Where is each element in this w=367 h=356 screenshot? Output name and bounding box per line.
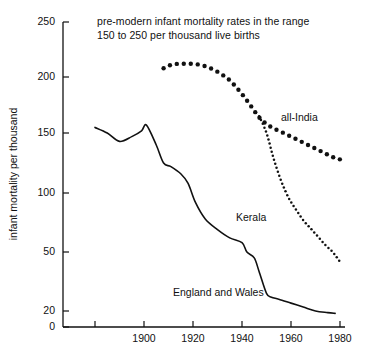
series-dot-all-india xyxy=(287,134,291,138)
series-dot-kerala xyxy=(278,175,281,178)
series-dot-all-india xyxy=(161,66,165,70)
series-dot-kerala xyxy=(258,115,261,118)
series-dot-all-india xyxy=(318,149,322,153)
series-dot-kerala xyxy=(275,167,278,170)
series-dot-all-india xyxy=(189,62,193,66)
x-tick-label: 1960 xyxy=(271,332,311,344)
series-dot-all-india xyxy=(221,73,225,77)
series-dot-kerala xyxy=(336,256,339,259)
series-dot-kerala xyxy=(281,182,284,185)
y-axis-ticks xyxy=(63,22,69,327)
series-dot-kerala xyxy=(265,130,268,133)
series-dot-kerala xyxy=(266,134,269,137)
series-dot-kerala xyxy=(333,253,336,256)
series-dot-all-india xyxy=(306,143,310,147)
x-tick-label: 1920 xyxy=(173,332,213,344)
series-dot-all-india xyxy=(312,146,316,150)
series-dot-kerala xyxy=(324,244,327,247)
series-dot-all-india xyxy=(268,124,272,128)
series-dot-all-india xyxy=(202,64,206,68)
series-dot-all-india xyxy=(300,140,304,144)
series-dot-kerala xyxy=(330,250,333,253)
series-dot-all-india xyxy=(325,152,329,156)
series-dot-kerala xyxy=(274,163,277,166)
series-dot-all-india xyxy=(209,66,213,70)
series-dot-kerala xyxy=(273,159,276,162)
series-dot-all-india xyxy=(227,77,231,81)
y-tick-label: 150 xyxy=(25,126,55,138)
x-axis-ticks xyxy=(95,321,340,327)
series-dot-kerala xyxy=(290,201,293,204)
series-dot-kerala xyxy=(302,219,305,222)
series-dot-all-india xyxy=(338,157,342,161)
series-dot-all-india xyxy=(249,104,253,108)
series-dot-all-india xyxy=(274,128,278,132)
series-dot-kerala xyxy=(270,150,273,153)
series-dot-kerala xyxy=(299,215,302,218)
series-dot-all-india xyxy=(281,130,285,134)
series-dot-all-india xyxy=(293,137,297,141)
series-dot-kerala xyxy=(292,205,295,208)
series-dot-all-india xyxy=(331,155,335,159)
series-dot-kerala xyxy=(297,212,300,215)
series-dot-kerala xyxy=(284,190,287,193)
x-tick-label: 1940 xyxy=(222,332,262,344)
y-tick-label: 50 xyxy=(25,245,55,257)
series-dot-all-india xyxy=(215,69,219,73)
y-tick-label: 20 xyxy=(25,304,55,316)
series-dot-kerala xyxy=(310,228,313,231)
series-dot-all-india xyxy=(196,62,200,66)
series-dot-kerala xyxy=(313,231,316,234)
series-dot-kerala xyxy=(295,208,298,211)
series-dot-kerala xyxy=(269,146,272,149)
series-dot-kerala xyxy=(262,123,265,126)
series-dot-all-india xyxy=(168,63,172,67)
series-dot-all-india xyxy=(175,62,179,66)
data-series xyxy=(95,62,342,314)
y-tick-label: 200 xyxy=(25,70,55,82)
series-dot-kerala xyxy=(279,178,282,181)
series-dot-kerala xyxy=(260,119,263,122)
series-dot-all-india xyxy=(232,82,236,86)
y-tick-label: 100 xyxy=(25,186,55,198)
series-dot-all-india xyxy=(241,93,245,97)
plot-area xyxy=(0,0,367,356)
series-dot-kerala xyxy=(327,247,330,250)
series-dot-kerala xyxy=(338,259,341,262)
series-dot-kerala xyxy=(307,225,310,228)
y-tick-label: 250 xyxy=(25,15,55,27)
y-tick-label: 0 xyxy=(25,320,55,332)
series-dot-kerala xyxy=(267,138,270,141)
series-dot-kerala xyxy=(263,126,266,129)
x-tick-label: 1900 xyxy=(124,332,164,344)
series-dot-all-india xyxy=(182,62,186,66)
series-dot-all-india xyxy=(236,88,240,92)
series-dot-kerala xyxy=(321,241,324,244)
series-dot-kerala xyxy=(319,238,322,241)
series-dot-kerala xyxy=(277,171,280,174)
series-dot-kerala xyxy=(272,155,275,158)
series-dot-kerala xyxy=(305,222,308,225)
series-dot-kerala xyxy=(316,234,319,237)
series-dot-kerala xyxy=(288,198,291,201)
series-dot-kerala xyxy=(286,194,289,197)
series-dot-all-india xyxy=(253,110,257,114)
series-dot-all-india xyxy=(245,99,249,103)
series-dot-kerala xyxy=(268,142,271,145)
x-tick-label: 1980 xyxy=(320,332,360,344)
chart-container: pre-modern infant mortality rates in the… xyxy=(0,0,367,356)
series-line-england-and-wales xyxy=(95,125,335,314)
series-dot-kerala xyxy=(283,186,286,189)
